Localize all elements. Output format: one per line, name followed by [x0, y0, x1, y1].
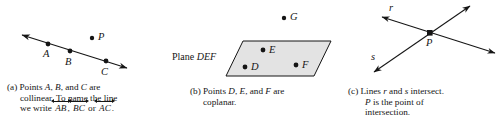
line-r: [382, 17, 495, 53]
panel-a-collinear-points: A B C P (a) Points A, B, and C are colli…: [0, 0, 170, 128]
panel-c-intersecting-lines: r s P (c) Lines r and s intersect. P is …: [336, 0, 501, 128]
line-r-label: r: [389, 2, 393, 13]
point-c-label: C: [101, 66, 108, 77]
caption-a-l1-prefix: (a) Points: [7, 82, 45, 92]
coplanar-points-plane-diagram: [168, 0, 338, 86]
point-g-dot: [282, 16, 286, 20]
caption-a-l3-sep-2: or: [86, 103, 98, 113]
point-a-label: A: [43, 48, 49, 59]
caption-c-l2-rest: is the point of: [371, 97, 424, 107]
plane-def-label: Plane DEF: [172, 51, 216, 62]
panel-b-coplanar-points: Plane DEF D E F G (b) Points D, E, and F…: [168, 0, 338, 128]
caption-b-l1-point-d: D: [228, 86, 235, 96]
point-g-label: G: [290, 11, 298, 22]
point-p-label: P: [98, 31, 104, 42]
point-p-intersection-label: P: [426, 37, 432, 48]
caption-a-l1-sep-2: , and: [61, 82, 81, 92]
line-name-ac: AC: [98, 103, 112, 113]
line-name-bc-text: BC: [73, 103, 85, 113]
caption-a-line-1: (a) Points A, B, and C are: [7, 82, 117, 93]
point-b-label: B: [65, 56, 71, 67]
caption-c-l1-mid: and: [387, 86, 405, 96]
caption-b-l1-sep-2: , and: [245, 86, 265, 96]
caption-c-line-3: intersection.: [348, 107, 444, 118]
caption-b-l1-prefix: (b) Points: [190, 86, 228, 96]
caption-a: (a) Points A, B, and C are collinear. To…: [7, 82, 117, 114]
line-ac: [22, 35, 127, 68]
caption-c: (c) Lines r and s intersect. P is the po…: [348, 86, 444, 118]
line-s-label: s: [371, 51, 375, 62]
line-s: [374, 6, 470, 72]
caption-a-l3-prefix: we write: [20, 103, 54, 113]
caption-c-l1-suffix: intersect.: [408, 86, 444, 96]
point-f-label: F: [302, 59, 308, 70]
collinear-points-line-diagram: [0, 0, 170, 80]
point-c-dot: [104, 59, 109, 64]
point-d-label: D: [251, 61, 259, 72]
caption-c-l1-prefix: (c) Lines: [348, 86, 383, 96]
line-name-ab-text: AB: [55, 103, 66, 113]
line-name-bc: BC: [72, 103, 86, 113]
point-p-intersection-dot: [427, 30, 433, 36]
caption-b-line-1: (b) Points D, E, and F are: [190, 86, 284, 97]
caption-a-l3-suffix: .: [112, 103, 114, 113]
point-e-dot: [261, 48, 266, 53]
line-name-ab: AB: [54, 103, 67, 113]
point-d-dot: [243, 65, 248, 70]
line-name-ac-text: AC: [99, 103, 111, 113]
plane-def-shape: [226, 41, 331, 76]
caption-b: (b) Points D, E, and F are coplanar.: [190, 86, 284, 107]
caption-c-line-1: (c) Lines r and s intersect.: [348, 86, 444, 97]
point-a-dot: [46, 42, 51, 47]
intersecting-lines-diagram: [336, 0, 501, 86]
caption-a-line-3: we write AB, BC or AC.: [7, 103, 117, 114]
plane-label-name: DEF: [197, 51, 216, 62]
geometry-figure: A B C P (a) Points A, B, and C are colli…: [0, 0, 501, 128]
point-p-dot: [90, 36, 94, 40]
caption-c-line-2: P is the point of: [348, 97, 444, 108]
point-f-dot: [294, 63, 299, 68]
plane-label-prefix: Plane: [172, 51, 197, 62]
caption-a-l1-suffix: are: [87, 82, 101, 92]
caption-b-l1-suffix: are: [271, 86, 285, 96]
point-b-dot: [68, 49, 73, 54]
caption-b-line-2: coplanar.: [190, 97, 284, 108]
point-e-label: E: [269, 44, 275, 55]
